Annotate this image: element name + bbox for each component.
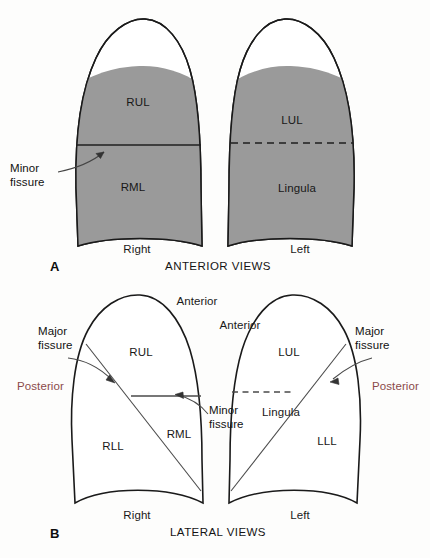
label-lingula-lateral: Lingula	[262, 406, 300, 420]
label-left-side-lateral: Left	[290, 509, 310, 523]
right-lateral-lung-outline	[72, 295, 203, 503]
left-lung-anterior	[215, 19, 370, 260]
callout-major-fissure-left-line1: Major	[355, 325, 390, 339]
label-rul-lateral: RUL	[129, 346, 152, 360]
callout-minor-fissure-lateral-line2: fissure	[209, 418, 244, 432]
label-right-side-anterior: Right	[123, 243, 150, 257]
callout-minor-fissure-lateral: Minor fissure	[209, 404, 244, 431]
label-anterior-right-lateral: Anterior	[176, 295, 217, 309]
label-lul-lateral: LUL	[278, 346, 299, 360]
label-anterior-left-lateral: Anterior	[219, 319, 260, 333]
panel-letter-a: A	[50, 259, 60, 274]
label-posterior-left-lateral: Posterior	[372, 380, 419, 394]
callout-minor-fissure-anterior-line2: fissure	[10, 176, 45, 190]
label-rul-anterior: RUL	[126, 96, 149, 110]
callout-minor-fissure-anterior: Minor fissure	[10, 162, 45, 189]
callout-minor-fissure-anterior-line1: Minor	[10, 162, 45, 176]
callout-major-fissure-right-line2: fissure	[38, 339, 73, 353]
right-lung-lateral	[72, 295, 203, 503]
caption-anterior-views: ANTERIOR VIEWS	[165, 260, 271, 274]
label-lll-lateral: LLL	[317, 435, 337, 449]
label-posterior-right-lateral: Posterior	[17, 380, 64, 394]
callout-major-fissure-left-line2: fissure	[355, 339, 390, 353]
callout-major-fissure-right-line1: Major	[38, 325, 73, 339]
callout-major-fissure-left: Major fissure	[355, 325, 390, 352]
label-rml-anterior: RML	[121, 181, 146, 195]
label-lul-anterior: LUL	[281, 114, 302, 128]
lung-anatomy-figure: RUL RML LUL Lingula Minor fissure Right …	[0, 0, 430, 558]
caption-lateral-views: LATERAL VIEWS	[170, 526, 266, 540]
label-left-side-anterior: Left	[290, 243, 310, 257]
label-right-side-lateral: Right	[123, 509, 150, 523]
right-lung-anterior	[60, 19, 215, 260]
callout-major-fissure-right: Major fissure	[38, 325, 73, 352]
panel-letter-b: B	[50, 526, 60, 541]
label-rll-lateral: RLL	[102, 440, 123, 454]
lung-diagram-svg	[0, 0, 430, 558]
callout-minor-fissure-lateral-line1: Minor	[209, 404, 244, 418]
label-lingula-anterior: Lingula	[278, 182, 316, 196]
label-rml-lateral: RML	[167, 428, 192, 442]
